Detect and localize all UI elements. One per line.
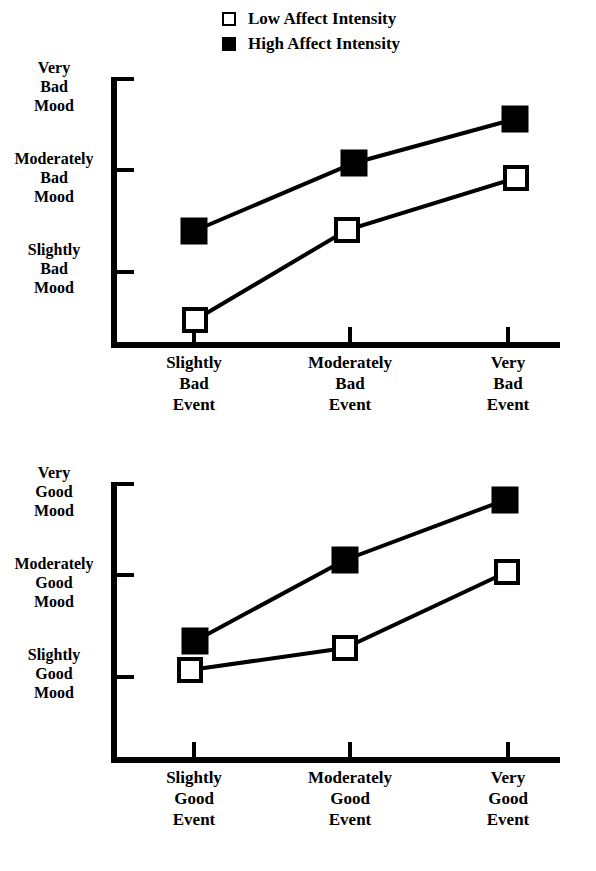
data-point-high-affect-3 — [503, 107, 527, 131]
figure-page: Low Affect Intensity High Affect Intensi… — [0, 0, 596, 871]
x-axis-label-very-bad-event: Very Bad Event — [443, 352, 573, 415]
bad-mood-chart: Very Bad Mood Moderately Bad Mood Slight… — [0, 55, 596, 455]
data-point-high-affect-1 — [183, 629, 207, 653]
legend-item-low-affect: Low Affect Intensity — [222, 6, 482, 31]
data-point-high-affect-2 — [333, 548, 357, 572]
open-square-icon — [222, 12, 236, 26]
legend-label-high-affect: High Affect Intensity — [248, 34, 400, 53]
x-axis-label-slightly-bad-event: Slightly Bad Event — [129, 352, 259, 415]
x-axis-label-moderately-good-event: Moderately Good Event — [285, 767, 415, 830]
y-axis-label-moderately-good-mood: Moderately Good Mood — [2, 554, 106, 611]
series-line-low-affect — [195, 178, 516, 320]
data-point-high-affect-3 — [493, 488, 517, 512]
x-axis-label-slightly-good-event: Slightly Good Event — [129, 767, 259, 830]
y-axis-label-moderately-bad-mood: Moderately Bad Mood — [2, 149, 106, 206]
data-point-high-affect-2 — [342, 151, 366, 175]
data-point-low-affect-3 — [505, 167, 527, 189]
data-point-low-affect-2 — [334, 637, 356, 659]
data-point-low-affect-2 — [336, 219, 358, 241]
legend-label-low-affect: Low Affect Intensity — [248, 9, 396, 28]
y-axis-label-slightly-bad-mood: Slightly Bad Mood — [2, 240, 106, 297]
y-axis-label-very-good-mood: Very Good Mood — [2, 463, 106, 520]
data-point-low-affect-1 — [179, 659, 201, 681]
data-point-high-affect-1 — [182, 219, 206, 243]
filled-square-icon — [222, 37, 236, 51]
legend-item-high-affect: High Affect Intensity — [222, 31, 482, 56]
data-point-low-affect-1 — [184, 309, 206, 331]
chart-legend: Low Affect Intensity High Affect Intensi… — [222, 6, 482, 56]
x-axis-label-very-good-event: Very Good Event — [443, 767, 573, 830]
y-axis-label-very-bad-mood: Very Bad Mood — [2, 58, 106, 115]
x-axis-label-moderately-bad-event: Moderately Bad Event — [285, 352, 415, 415]
y-axis-label-slightly-good-mood: Slightly Good Mood — [2, 645, 106, 702]
data-point-low-affect-3 — [496, 561, 518, 583]
good-mood-chart: Very Good Mood Moderately Good Mood Slig… — [0, 460, 596, 871]
